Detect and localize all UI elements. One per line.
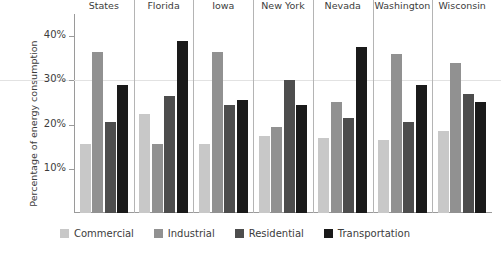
plot-area: 10%20%30%40% United StatesFloridaIowaNew… <box>74 14 492 213</box>
bar-commercial <box>139 114 150 214</box>
bar-industrial <box>92 52 103 213</box>
legend-swatch-icon <box>235 229 244 238</box>
y-tick-label: 30% <box>32 73 66 84</box>
y-tick-label: 10% <box>32 162 66 173</box>
panel-title: Wisconsin <box>432 0 492 11</box>
bar-residential <box>105 122 116 213</box>
bar-industrial <box>271 127 282 213</box>
bar-industrial <box>152 144 163 213</box>
energy-consumption-bar-chart: Percentage of energy consumption 10%20%3… <box>0 0 501 258</box>
panel-washington: Washington <box>373 14 433 213</box>
bar-transportation <box>416 85 427 213</box>
panel-title: Iowa <box>193 0 253 11</box>
bar-group <box>432 14 492 213</box>
bar-residential <box>284 80 295 213</box>
panel-title: Washington <box>373 0 433 11</box>
legend-swatch-icon <box>324 229 333 238</box>
bar-residential <box>343 118 354 213</box>
bar-industrial <box>391 54 402 213</box>
panel-title: Florida <box>134 0 194 11</box>
panel-florida: Florida <box>134 14 194 213</box>
bar-commercial <box>259 136 270 213</box>
bar-group <box>253 14 313 213</box>
bar-industrial <box>331 102 342 213</box>
bar-group <box>313 14 373 213</box>
bar-residential <box>164 96 175 213</box>
panel-title: New York <box>253 0 313 11</box>
bar-transportation <box>117 85 128 213</box>
bar-industrial <box>450 63 461 213</box>
legend-item-residential[interactable]: Residential <box>235 228 304 239</box>
bar-transportation <box>177 41 188 213</box>
bar-commercial <box>318 138 329 213</box>
panel-iowa: Iowa <box>193 14 253 213</box>
bar-group <box>134 14 194 213</box>
chart-legend: CommercialIndustrialResidentialTransport… <box>60 228 410 239</box>
legend-item-commercial[interactable]: Commercial <box>60 228 134 239</box>
y-tick-label: 40% <box>32 29 66 40</box>
bar-group <box>373 14 433 213</box>
legend-label: Industrial <box>168 228 215 239</box>
legend-swatch-icon <box>60 229 69 238</box>
legend-label: Commercial <box>74 228 134 239</box>
panel-title: Nevada <box>313 0 373 11</box>
bar-commercial <box>80 144 91 213</box>
panel-wisconsin: Wisconsin <box>432 14 492 213</box>
bar-commercial <box>438 131 449 213</box>
legend-swatch-icon <box>154 229 163 238</box>
legend-item-transportation[interactable]: Transportation <box>324 228 410 239</box>
panel-title: United States <box>74 0 134 11</box>
bar-transportation <box>296 105 307 213</box>
bar-residential <box>224 105 235 213</box>
y-tick-label: 20% <box>32 118 66 129</box>
panel-united-states: United States <box>74 14 134 213</box>
panel-nevada: Nevada <box>313 14 373 213</box>
bar-group <box>193 14 253 213</box>
bar-industrial <box>212 52 223 213</box>
panel-new-york: New York <box>253 14 313 213</box>
legend-label: Residential <box>249 228 304 239</box>
bar-transportation <box>356 47 367 213</box>
bar-residential <box>403 122 414 213</box>
bar-group <box>74 14 134 213</box>
bar-commercial <box>199 144 210 213</box>
bar-commercial <box>378 140 389 213</box>
bar-transportation <box>237 100 248 213</box>
legend-label: Transportation <box>338 228 410 239</box>
bar-residential <box>463 94 474 213</box>
bar-transportation <box>475 102 486 213</box>
legend-item-industrial[interactable]: Industrial <box>154 228 215 239</box>
